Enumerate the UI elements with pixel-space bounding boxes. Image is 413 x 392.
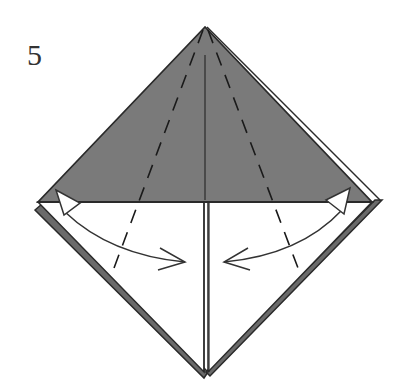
origami-diagram (0, 0, 413, 392)
